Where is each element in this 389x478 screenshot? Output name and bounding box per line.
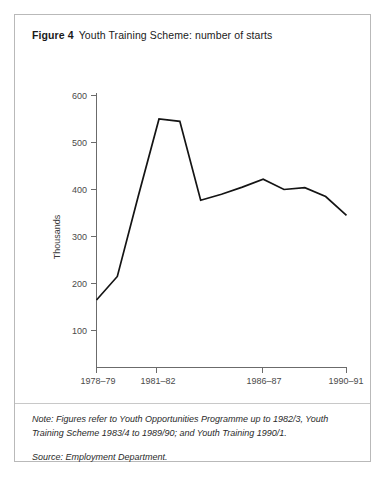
y-axis-title: Thousands (52, 214, 62, 259)
x-axis: 1978–79 1981–82 1986–87 1990–91 (80, 368, 363, 386)
x-tick-label-1981: 1981–82 (140, 376, 175, 385)
x-tick-label-1978: 1978–79 (80, 376, 115, 385)
x-tick-label-1986: 1986–87 (246, 376, 281, 385)
y-axis: 600 500 400 300 200 100 Thousands (52, 91, 97, 368)
figure-title: Figure 4Youth Training Scheme: number of… (32, 29, 272, 41)
source-text: Source: Employment Department. (32, 451, 354, 465)
page-title: Youth Training Scheme: number of starts (79, 29, 273, 41)
y-tick-label-400: 400 (72, 185, 87, 195)
footer-block: Note: Figures refer to Youth Opportuniti… (32, 413, 354, 465)
figure-card: Figure 4Youth Training Scheme: number of… (14, 14, 371, 462)
y-tick-label-300: 300 (72, 232, 87, 242)
y-tick-label-600: 600 (72, 91, 87, 101)
chart-plot-area: 600 500 400 300 200 100 Thousands 1978–7… (15, 45, 370, 385)
x-tick-label-1990: 1990–91 (328, 376, 363, 385)
note-text: Note: Figures refer to Youth Opportuniti… (32, 413, 354, 440)
line-chart-svg: 600 500 400 300 200 100 Thousands 1978–7… (15, 45, 370, 385)
footer-divider (15, 403, 370, 404)
y-tick-label-500: 500 (72, 138, 87, 148)
y-tick-label-100: 100 (72, 326, 87, 336)
data-series-line (97, 119, 347, 300)
y-tick-label-200: 200 (72, 279, 87, 289)
figure-number: Figure 4 (32, 29, 74, 41)
